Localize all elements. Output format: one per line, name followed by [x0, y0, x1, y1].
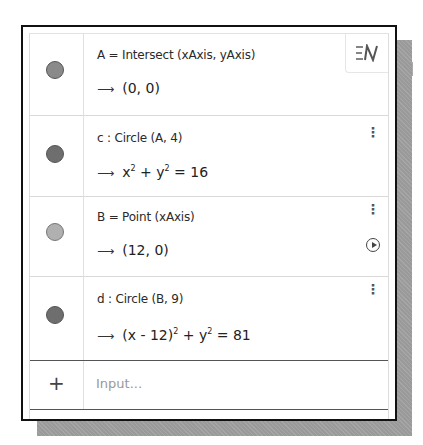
row-value: ⟶(12, 0): [97, 242, 169, 258]
algebra-description-toggle-icon: [355, 44, 379, 62]
row-definition[interactable]: c : Circle (A, 4): [97, 131, 182, 145]
play-animation-icon[interactable]: [366, 238, 380, 252]
visibility-toggle-dot[interactable]: [46, 306, 64, 324]
algebra-input-field[interactable]: Input...: [96, 376, 142, 391]
visibility-toggle-dot[interactable]: [46, 61, 64, 79]
algebra-row-c[interactable]: c : Circle (A, 4) ⟶x2 + y2 = 16 ⋮: [30, 115, 388, 197]
visibility-toggle-dot[interactable]: [46, 223, 64, 241]
edge-mark: [412, 62, 413, 76]
row-definition[interactable]: A = Intersect (xAxis, yAxis): [97, 48, 255, 62]
algebra-input-row[interactable]: + Input...: [30, 360, 388, 410]
row-definition[interactable]: d : Circle (B, 9): [97, 292, 183, 306]
algebra-row-d[interactable]: d : Circle (B, 9) ⟶(x - 12)2 + y2 = 81 ⋮: [30, 276, 388, 360]
algebra-view-panel: A = Intersect (xAxis, yAxis) ⟶(0, 0) c :…: [21, 25, 397, 421]
row-value: ⟶(0, 0): [97, 80, 160, 96]
algebra-row-A[interactable]: A = Intersect (xAxis, yAxis) ⟶(0, 0): [30, 34, 388, 116]
more-vertical-icon[interactable]: ⋮: [366, 129, 378, 147]
result-arrow-icon: ⟶: [97, 244, 114, 258]
visibility-toggle-dot[interactable]: [46, 145, 64, 163]
result-arrow-icon: ⟶: [97, 82, 114, 96]
algebra-list: A = Intersect (xAxis, yAxis) ⟶(0, 0) c :…: [29, 33, 389, 419]
row-value: ⟶x2 + y2 = 16: [97, 164, 208, 180]
result-arrow-icon: ⟶: [97, 329, 114, 343]
plus-icon[interactable]: +: [48, 371, 65, 395]
row-value: ⟶(x - 12)2 + y2 = 81: [97, 327, 251, 343]
more-vertical-icon[interactable]: ⋮: [366, 286, 378, 304]
row-definition[interactable]: B = Point (xAxis): [97, 210, 195, 224]
more-vertical-icon[interactable]: ⋮: [366, 206, 378, 224]
algebra-row-B[interactable]: B = Point (xAxis) ⟶(12, 0) ⋮: [30, 196, 388, 277]
algebra-style-button[interactable]: [345, 34, 388, 73]
result-arrow-icon: ⟶: [97, 166, 114, 180]
